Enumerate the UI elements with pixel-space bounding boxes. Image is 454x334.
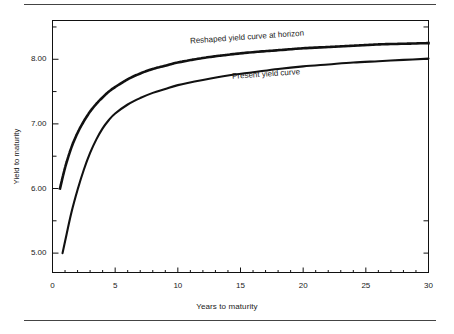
x-tick-label: 30 <box>414 281 444 290</box>
y-tick-label: 8.00 <box>17 54 47 63</box>
x-tick-label: 10 <box>163 281 193 290</box>
x-tick-label: 5 <box>100 281 130 290</box>
figure-container: Yield to maturity Years to maturity 5.00… <box>0 0 454 334</box>
plot-frame <box>53 21 429 273</box>
x-axis-title: Years to maturity <box>0 302 454 311</box>
x-tick-label: 25 <box>351 281 381 290</box>
y-tick-label: 6.00 <box>17 184 47 193</box>
x-tick-label: 15 <box>226 281 256 290</box>
x-tick-label: 20 <box>288 281 318 290</box>
x-tick-label: 0 <box>38 281 68 290</box>
y-tick-label: 7.00 <box>17 119 47 128</box>
y-tick-label: 5.00 <box>17 248 47 257</box>
series-curve-1 <box>63 59 429 254</box>
x-axis-ticks <box>53 268 429 273</box>
series-curve-2 <box>60 43 428 188</box>
